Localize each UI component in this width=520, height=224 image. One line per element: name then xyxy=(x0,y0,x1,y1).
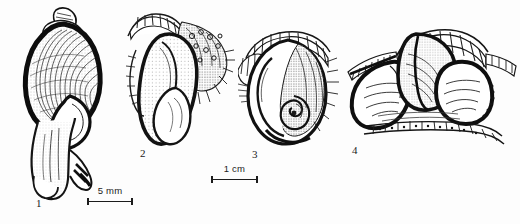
upper-right-ridged-band xyxy=(486,54,516,76)
figure-label-3: 3 xyxy=(252,149,258,160)
figure-4-paired-lobes xyxy=(346,10,518,150)
scalebar-1cm-cap-right xyxy=(256,176,258,183)
scalebar-5mm-bar xyxy=(87,201,133,203)
figure-label-1: 1 xyxy=(36,198,42,209)
scalebar-1cm-rule xyxy=(211,176,258,183)
figure-label-4: 4 xyxy=(352,145,358,156)
figure-1-whole-shell xyxy=(12,4,122,204)
scalebar-5mm-cap-right xyxy=(131,198,133,205)
right-lobe xyxy=(436,62,495,124)
scalebar-5mm-label: 5 mm xyxy=(87,186,133,196)
figure-3-coiled-dissection xyxy=(238,18,348,158)
illustration-plate: 1 xyxy=(0,0,520,224)
figure-2-lateral-dissection xyxy=(126,6,242,158)
scalebar-1cm-bar xyxy=(211,179,258,181)
siphonal-canal xyxy=(70,150,91,190)
scalebar-1cm: 1 cm xyxy=(211,164,258,183)
figure-label-2: 2 xyxy=(140,148,146,159)
scalebar-5mm-rule xyxy=(87,198,133,205)
scalebar-5mm: 5 mm xyxy=(87,186,133,205)
scalebar-1cm-label: 1 cm xyxy=(211,164,258,174)
